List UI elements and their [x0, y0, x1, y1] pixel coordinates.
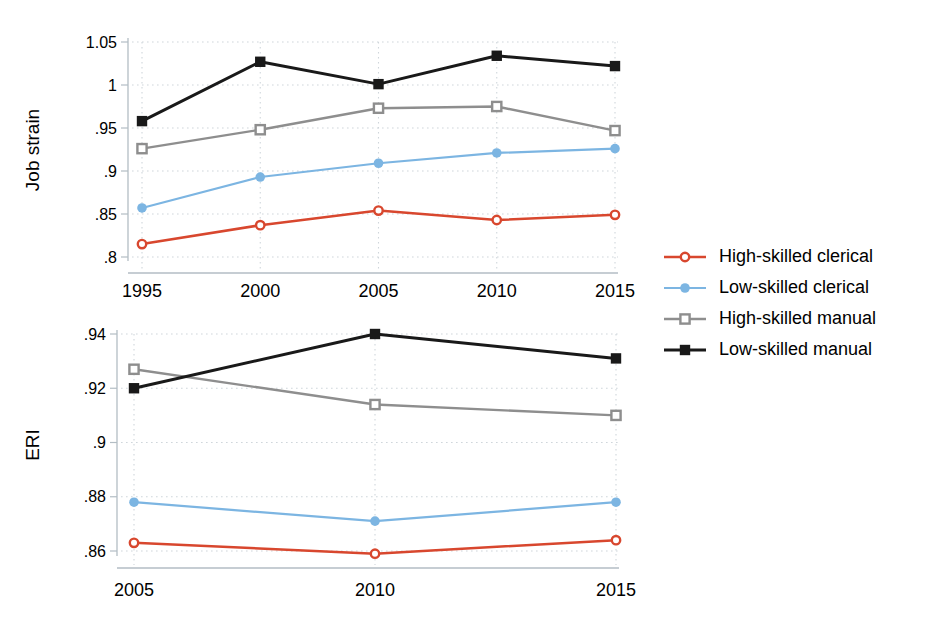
- x-tick-label: 2000: [240, 281, 280, 301]
- marker-high-skilled-clerical: [612, 536, 620, 544]
- marker-high-skilled-manual: [611, 411, 620, 420]
- marker-low-skilled-clerical: [610, 144, 620, 154]
- marker-low-skilled-manual: [129, 383, 139, 393]
- marker-low-skilled-clerical: [255, 172, 265, 182]
- y-tick-label: .9: [104, 163, 117, 180]
- marker-high-skilled-manual: [137, 144, 146, 153]
- marker-high-skilled-clerical: [256, 221, 264, 229]
- marker-high-skilled-manual: [680, 314, 689, 323]
- marker-low-skilled-manual: [255, 57, 265, 67]
- legend-item-low-skilled-clerical: Low-skilled clerical: [662, 277, 876, 298]
- marker-low-skilled-manual: [492, 51, 502, 61]
- chart-job-strain: .8.85.9.9511.0519952000200520102015: [86, 34, 635, 302]
- y-tick-label: .95: [95, 120, 117, 137]
- marker-low-skilled-manual: [370, 329, 380, 339]
- marker-low-skilled-clerical: [129, 497, 139, 507]
- x-tick-label: 2015: [595, 281, 635, 301]
- legend-item-label: Low-skilled manual: [719, 339, 872, 360]
- x-tick-label: 2005: [114, 580, 154, 600]
- legend-item-high-skilled-manual: High-skilled manual: [662, 308, 876, 329]
- marker-high-skilled-clerical: [371, 550, 379, 558]
- y-tick-label: .9: [93, 434, 106, 451]
- y-tick-label: .85: [95, 206, 117, 223]
- marker-high-skilled-manual: [374, 104, 383, 113]
- legend-item-label: High-skilled manual: [719, 308, 876, 329]
- y-tick-label: 1: [108, 77, 117, 94]
- marker-high-skilled-manual: [370, 400, 379, 409]
- y-tick-label: .94: [84, 326, 106, 343]
- legend-square-filled-icon: [662, 341, 708, 359]
- x-tick-label: 1995: [122, 281, 162, 301]
- legend-item-low-skilled-manual: Low-skilled manual: [662, 339, 876, 360]
- legend-circle-open-icon: [662, 248, 708, 266]
- marker-low-skilled-manual: [610, 61, 620, 71]
- marker-low-skilled-manual: [680, 344, 690, 354]
- marker-high-skilled-manual: [610, 126, 619, 135]
- chart-eri: .86.88.9.92.94200520102015: [84, 326, 636, 601]
- marker-low-skilled-clerical: [374, 158, 384, 168]
- marker-low-skilled-manual: [137, 116, 147, 126]
- marker-high-skilled-clerical: [130, 539, 138, 547]
- marker-high-skilled-clerical: [138, 240, 146, 248]
- marker-high-skilled-manual: [256, 125, 265, 134]
- x-tick-label: 2010: [477, 281, 517, 301]
- x-tick-label: 2010: [355, 580, 395, 600]
- marker-low-skilled-clerical: [492, 148, 502, 158]
- x-tick-label: 2015: [596, 580, 636, 600]
- legend: High-skilled clericalLow-skilled clerica…: [662, 246, 876, 360]
- y-tick-label: .92: [84, 380, 106, 397]
- x-tick-label: 2005: [358, 281, 398, 301]
- legend-item-label: High-skilled clerical: [719, 246, 873, 267]
- marker-low-skilled-clerical: [370, 516, 380, 526]
- legend-item-label: Low-skilled clerical: [719, 277, 869, 298]
- marker-low-skilled-manual: [373, 79, 383, 89]
- figure: Job strain ERI .8.85.9.9511.051995200020…: [0, 0, 948, 617]
- y-tick-label: .8: [104, 249, 117, 266]
- marker-low-skilled-clerical: [137, 203, 147, 213]
- marker-high-skilled-clerical: [493, 216, 501, 224]
- y-tick-label: 1.05: [86, 34, 117, 51]
- y-tick-label: .86: [84, 543, 106, 560]
- marker-high-skilled-manual: [129, 365, 138, 374]
- marker-high-skilled-manual: [492, 102, 501, 111]
- marker-low-skilled-clerical: [680, 283, 690, 293]
- legend-square-open-icon: [662, 310, 708, 328]
- legend-item-high-skilled-clerical: High-skilled clerical: [662, 246, 876, 267]
- legend-circle-filled-icon: [662, 279, 708, 297]
- marker-high-skilled-clerical: [374, 206, 382, 214]
- marker-low-skilled-clerical: [611, 497, 621, 507]
- marker-high-skilled-clerical: [681, 252, 689, 260]
- marker-high-skilled-clerical: [611, 211, 619, 219]
- marker-low-skilled-manual: [611, 353, 621, 363]
- y-tick-label: .88: [84, 488, 106, 505]
